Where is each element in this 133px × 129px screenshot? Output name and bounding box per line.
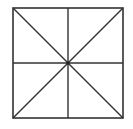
center-point — [66, 61, 69, 64]
diagram-canvas — [0, 0, 133, 129]
